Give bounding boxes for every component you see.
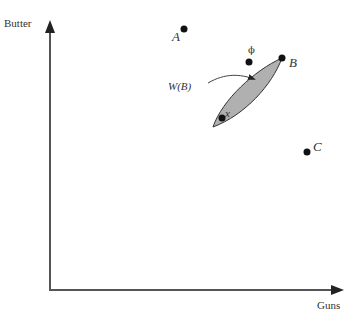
point-a: A [171,26,188,45]
point-phi: ϕ [246,44,256,66]
point-b-label: B [289,55,297,70]
x-axis-label: Guns [317,299,340,311]
point-a-dot [181,26,188,33]
point-c-dot [304,149,311,156]
y-axis-arrow-icon [45,20,55,33]
point-x-label: x [224,107,230,119]
point-b-dot [279,55,286,62]
diagram-canvas: Butter Guns W(B) A ϕ B x C [0,0,360,321]
point-a-label: A [171,29,180,44]
point-c-label: C [313,139,322,154]
y-axis: Butter [4,17,55,290]
x-axis-arrow-icon [331,285,344,295]
point-phi-label: ϕ [248,44,255,55]
point-c: C [304,139,323,156]
point-b: B [279,55,298,71]
region-label: W(B) [168,80,192,93]
y-axis-label: Butter [4,17,32,29]
point-phi-dot [246,59,253,66]
x-axis: Guns [49,285,344,311]
